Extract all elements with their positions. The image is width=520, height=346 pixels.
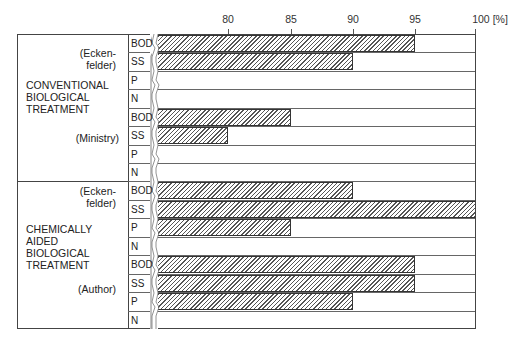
row-label: P [131, 75, 138, 87]
tick-label-95: 95 [409, 13, 421, 25]
source-label-ministry: (Ministry) [76, 132, 119, 144]
row-divider [128, 89, 476, 90]
row-label: N [131, 315, 138, 327]
row-divider [128, 145, 476, 146]
bar-conv-eck-ss [150, 53, 353, 70]
row-label: SS [131, 130, 144, 142]
source-label-eckenfelder: (Ecken- felder) [80, 185, 116, 209]
source-label-eckenfelder: (Ecken- felder) [80, 47, 116, 71]
row-label: SS [131, 278, 144, 290]
axis-break-zigzag [150, 34, 162, 329]
bar-conv-min-bod [150, 109, 291, 126]
row-label: BOD [131, 259, 153, 271]
row-label: P [131, 296, 138, 308]
bar-chem-auth-bod [150, 256, 415, 273]
tick-label-85: 85 [285, 13, 297, 25]
axis-100-line [475, 34, 476, 329]
row-divider [128, 311, 476, 312]
row-label: BOD [131, 112, 153, 124]
tick-label-80: 80 [222, 13, 234, 25]
bar-chem-eck-p [150, 219, 291, 236]
tick-label-100: 100 [%] [472, 13, 508, 25]
bar-chem-auth-p [150, 293, 353, 310]
row-label: BOD [131, 38, 153, 50]
row-label: N [131, 93, 138, 105]
row-divider [128, 71, 476, 72]
bar-chem-auth-ss [150, 275, 415, 292]
row-label: P [131, 149, 138, 161]
source-label-author: (Author) [78, 283, 116, 295]
bar-conv-eck-bod [150, 35, 415, 52]
row-label: N [131, 167, 138, 179]
row-label: P [131, 222, 138, 234]
bar-chem-eck-ss [150, 201, 476, 218]
row-label: SS [131, 56, 144, 68]
group-title-conventional: CONVENTIONAL BIOLOGICAL TREATMENT [26, 79, 109, 115]
tick-label-90: 90 [347, 13, 359, 25]
row-label: SS [131, 204, 144, 216]
row-divider [128, 163, 476, 164]
row-divider [128, 237, 476, 238]
group-title-chemical: CHEMICALLY AIDED BIOLOGICAL TREATMENT [26, 223, 92, 271]
group-separator [17, 181, 128, 182]
row-label: BOD [131, 185, 153, 197]
row-label: N [131, 241, 138, 253]
bar-chem-eck-bod [150, 182, 353, 199]
